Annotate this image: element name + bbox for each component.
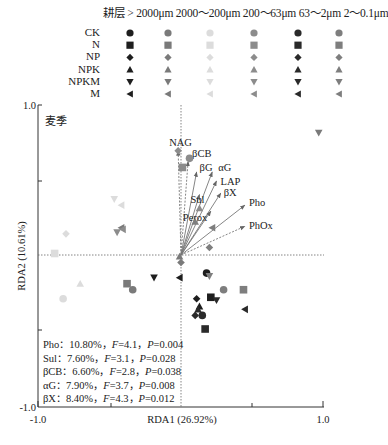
vector-label: Sul <box>190 194 204 205</box>
point-np <box>177 259 185 267</box>
point-n <box>123 280 131 288</box>
stat-line: βX：8.40%，F=4.3，P=0.012 <box>43 392 183 406</box>
vector-label: Pho <box>249 197 265 208</box>
vectors: NAGβCBβGαGLAPSulβXPeroxPhoPhOx <box>169 137 273 255</box>
y-axis-label: RDA2 (10.61%) <box>16 221 28 291</box>
point-npkm <box>113 229 121 236</box>
vector-label: LAP <box>221 176 241 187</box>
point-ck <box>220 286 228 294</box>
point-np <box>191 312 199 320</box>
vector-label: βX <box>224 187 237 198</box>
stat-line: Sul：7.60%，F=3.1，P=0.028 <box>43 352 183 366</box>
point-npkm <box>315 130 323 137</box>
point-n <box>201 325 209 333</box>
point-m <box>241 306 248 314</box>
panel-label: 麦季 <box>45 115 67 127</box>
point-m <box>176 274 183 282</box>
point-np <box>206 244 214 252</box>
vector-label: βCB <box>192 148 211 159</box>
point-n <box>51 250 59 258</box>
point-ck <box>186 155 194 163</box>
x-tick-left: -1.0 <box>30 414 47 425</box>
point-ck <box>59 295 67 303</box>
point-m <box>118 201 125 209</box>
point-ck <box>199 312 207 320</box>
x-tick-right: 1.0 <box>316 414 329 425</box>
vector-label: αG <box>218 162 232 173</box>
vector-βcb <box>181 161 188 255</box>
point-n <box>179 164 187 172</box>
stat-line: αG：7.90%，F=3.7，P=0.008 <box>43 379 183 393</box>
point-npk <box>196 204 204 211</box>
stat-line: Pho：10.80%，F=4.1，P=0.004 <box>43 338 183 352</box>
points <box>51 130 323 333</box>
point-npk <box>76 280 84 287</box>
point-np <box>193 295 201 303</box>
point-n <box>240 286 248 294</box>
vector-label: βG <box>200 162 213 173</box>
point-npkm <box>150 275 158 282</box>
stat-line: βCB：6.60%，F=2.8，P=0.038 <box>43 365 183 379</box>
point-npkm <box>110 196 118 203</box>
y-tick-top: 1.0 <box>23 100 36 111</box>
stats-box: Pho：10.80%，F=4.1，P=0.004Sul：7.60%，F=3.1，… <box>43 338 183 406</box>
x-axis-label: RDA1 (26.92%) <box>147 414 217 426</box>
vector-label: PhOx <box>249 220 274 231</box>
vector-label: NAG <box>169 137 192 148</box>
point-np <box>62 230 70 238</box>
y-tick-bottom: -1.0 <box>19 402 36 413</box>
